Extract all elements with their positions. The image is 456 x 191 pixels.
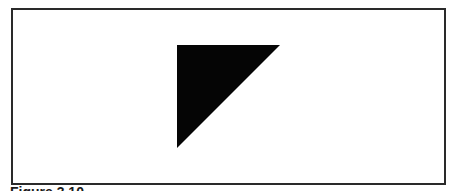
triangle-shape [0, 0, 456, 191]
figure-caption: Figure 3.10 [10, 184, 84, 191]
